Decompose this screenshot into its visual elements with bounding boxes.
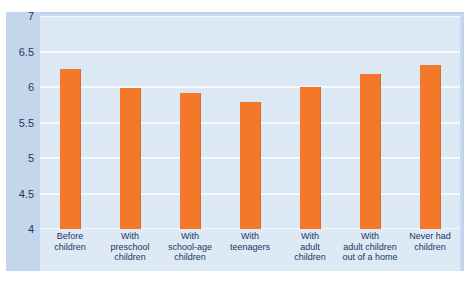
plot-area [40,16,460,229]
bar [420,65,441,229]
y-axis-tick-label: 7 [0,11,34,22]
y-axis-tick-label: 5 [0,153,34,164]
bar [360,74,381,229]
gridline [40,51,460,53]
bar-chart: Before childrenWith preschool childrenWi… [0,0,470,281]
bar [120,88,141,229]
bar [240,102,261,229]
x-axis-tick-label: With school-age children [158,231,222,263]
bar [60,69,81,229]
gridline [40,16,460,17]
y-axis-tick-label: 5.5 [0,117,34,128]
y-axis-tick-label: 6.5 [0,46,34,57]
x-axis-tick-label: With adult children [278,231,342,263]
x-axis-tick-label: With adult children out of a home [338,231,402,263]
bar [300,87,321,229]
y-axis-tick-label: 4 [0,224,34,235]
y-axis-tick-label: 4.5 [0,188,34,199]
gridline [40,86,460,88]
y-axis-tick-label: 6 [0,82,34,93]
x-axis-tick-label: With teenagers [218,231,282,252]
bar [180,93,201,229]
x-axis-label-band: Before childrenWith preschool childrenWi… [40,229,460,271]
x-axis-tick-label: Before children [38,231,102,252]
x-axis-tick-label: With preschool children [98,231,162,263]
x-axis-tick-label: Never had children [398,231,462,252]
